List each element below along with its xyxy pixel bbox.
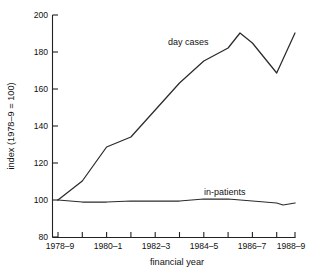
y-axis-title: index (1978–9 = 100) xyxy=(6,82,16,169)
y-tick-label-100: 100 xyxy=(34,195,49,205)
series-line-day-cases xyxy=(58,33,295,200)
x-tick-label-1980-1: 1980–1 xyxy=(94,241,123,251)
line-chart: 200 180 160 140 120 100 80 1978–9 1980–1 xyxy=(0,0,315,280)
x-tick-label-1984-5: 1984–5 xyxy=(190,241,219,251)
x-axis-title: financial year xyxy=(150,257,204,267)
y-tick-label-180: 180 xyxy=(34,47,49,57)
series-label-in-patients: in-patients xyxy=(204,187,246,197)
x-tick-label-1982-3: 1982–3 xyxy=(142,241,171,251)
y-tick-label-140: 140 xyxy=(34,121,49,131)
x-axis-tick-labels: 1978–9 1980–1 1982–3 1984–5 1986–7 1988–… xyxy=(46,241,306,251)
x-tick-label-1988-9: 1988–9 xyxy=(277,241,306,251)
x-tick-label-1978-9: 1978–9 xyxy=(46,241,75,251)
y-tick-label-160: 160 xyxy=(34,84,49,94)
series-label-day-cases: day cases xyxy=(168,37,209,47)
chart-container: 200 180 160 140 120 100 80 1978–9 1980–1 xyxy=(0,0,315,280)
y-tick-label-120: 120 xyxy=(34,158,49,168)
y-axis-tick-labels: 200 180 160 140 120 100 80 xyxy=(34,10,49,242)
x-tick-label-1986-7: 1986–7 xyxy=(238,241,267,251)
series-line-in-patients xyxy=(58,199,295,205)
y-axis-ticks xyxy=(53,15,59,237)
y-tick-label-200: 200 xyxy=(34,10,49,20)
x-axis-ticks xyxy=(58,232,295,238)
